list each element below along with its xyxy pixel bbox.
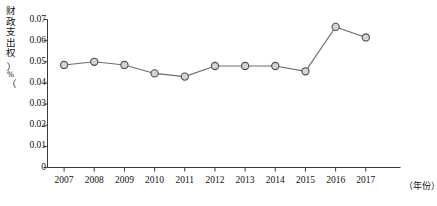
x-axis-tick-label: 2017 <box>346 176 386 186</box>
x-axis-tick-labels: 2007200820092010201120122013201420152016… <box>0 0 437 206</box>
chart-container: 财 政 支 出 权 ︵ % ︶ 0.070.060.050.040.030.02… <box>0 0 437 206</box>
x-axis-title: （年份） <box>404 182 437 191</box>
